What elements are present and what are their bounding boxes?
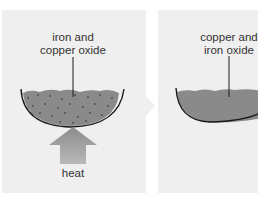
right-dish-icon: [176, 56, 258, 123]
products-label: copper and iron oxide: [189, 31, 258, 57]
reactants-label-line1: iron and: [33, 31, 113, 44]
reactants-label: iron and copper oxide: [33, 31, 113, 57]
reactants-label-line2: copper oxide: [33, 44, 113, 57]
products-label-line2: iron oxide: [189, 44, 258, 57]
left-dish-icon: [21, 57, 124, 127]
products-label-line1: copper and: [189, 31, 258, 44]
heat-label: heat: [53, 167, 93, 180]
heat-arrow-icon: [49, 127, 97, 164]
